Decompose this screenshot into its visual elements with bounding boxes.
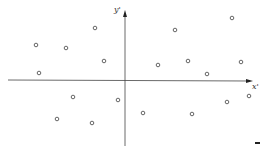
data-point — [225, 100, 229, 104]
data-point — [116, 98, 120, 102]
y-axis-label: y' — [114, 5, 121, 14]
data-point — [55, 117, 59, 121]
data-point — [64, 46, 68, 50]
y-axis — [123, 10, 127, 146]
data-points — [34, 16, 251, 125]
x-axis — [8, 79, 253, 83]
scatter-plot — [0, 0, 261, 149]
data-point — [186, 59, 190, 63]
data-point — [34, 43, 38, 47]
data-point — [93, 26, 97, 30]
data-point — [141, 111, 145, 115]
data-point — [230, 16, 234, 20]
data-point — [190, 112, 194, 116]
data-point — [156, 63, 160, 67]
data-point — [90, 121, 94, 125]
data-point — [102, 59, 106, 63]
x-axis-label: x' — [252, 82, 259, 91]
data-point — [205, 72, 209, 76]
corner-mark — [255, 142, 260, 144]
data-point — [71, 95, 75, 99]
data-point — [247, 94, 251, 98]
data-point — [37, 71, 41, 75]
data-point — [173, 28, 177, 32]
data-point — [239, 60, 243, 64]
